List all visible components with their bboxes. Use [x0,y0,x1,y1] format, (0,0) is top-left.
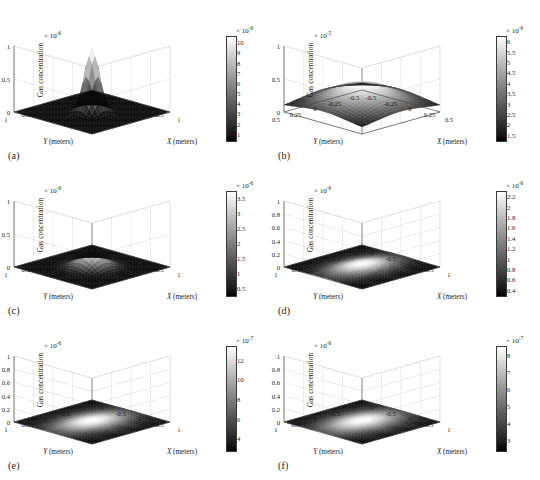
ytick-label: -0.5 [329,254,339,261]
colorbar-tick-label: 5 [237,90,240,97]
xtick-label: -0.5 [385,409,395,416]
colorbar-tick-label: 3 [237,110,240,117]
colorbar-exponent: × 10-7 [236,335,253,345]
xtick-label: -0.5 [115,409,125,416]
zaxis-exponent: × 10-6 [44,185,61,195]
zaxis-exponent: × 10-6 [44,340,61,350]
zaxis-title: Gas concentration [307,43,315,98]
ytick-label: 0 [313,105,316,112]
colorbar-tick-label: 4 [237,100,240,107]
panel-c: Gas concentration× 10-600.5110.50-0.5-1-… [0,163,270,318]
colorbar-tick-label: 5 [507,59,510,66]
colorbar-tick-label: 4 [507,79,510,86]
colorbar-tick-label: 2 [237,120,240,127]
colorbar-tick-label: 10 [237,39,244,46]
figure-multi-panel-surfaces: Gas concentration× 10-600.5110.50-0.5-1-… [0,0,540,480]
ytick-label: 0 [43,260,46,267]
zaxis-title: Gas concentration [307,198,315,253]
ytick-label: 0 [313,415,316,422]
zaxis-title: Gas concentration [37,198,45,253]
panel-d: Gas concentration× 10-600.20.40.60.8110.… [270,163,540,318]
colorbar-tick-label: 2.5 [237,225,245,232]
xtick-label: -1 [368,249,374,256]
ztick-label: 1 [0,198,10,205]
ytick-label: 0.5 [291,265,299,272]
ztick-label: 0.5 [0,231,10,238]
panel-label: (f) [278,460,289,471]
colorbar-tick-label: 2 [507,203,510,210]
yaxis-title: Y (meters) [43,448,73,456]
ztick-label: 1 [258,198,280,205]
colorbar-tick-label: 1 [237,269,240,276]
xtick-label: 1 [177,426,180,433]
ytick-label: 0 [313,260,316,267]
colorbar-tick-label: 0.5 [237,284,245,291]
ztick-label: 0 [0,109,10,116]
xaxis-title: X (meters) [437,293,467,301]
colorbar-tick-label: 5.5 [507,48,515,55]
xtick-label: -1 [98,249,104,256]
ytick-label: 1 [274,426,277,433]
colorbar-tick-label: 1.8 [507,214,515,221]
colorbar-tick-label: 1.2 [507,245,515,252]
ztick-label: 0.8 [258,366,280,373]
ytick-label: 0.5 [21,265,29,272]
xtick-label: 1 [447,271,450,278]
xtick-label: 0 [138,260,141,267]
ztick-label: 0.2 [258,250,280,257]
colorbar-tick-label: 3 [507,436,510,443]
colorbar-tick-label: 2.5 [507,111,515,118]
xtick-label: -0.5 [115,254,125,261]
colorbar-tick-label: 3 [237,210,240,217]
colorbar-tick-label: 9 [237,49,240,56]
colorbar-tick-label: 10 [237,376,244,383]
colorbar-tick-label: 4 [237,435,240,442]
colorbar-gradient [226,191,237,297]
panel-f: Gas concentration× 10-600.20.40.60.8110.… [270,318,540,473]
xaxis-title: X (meters) [167,138,197,146]
panel-label: (b) [278,150,290,161]
yaxis-title: Y (meters) [313,293,343,301]
colorbar-tick-label: 6 [507,385,510,392]
colorbar-gradient [496,191,507,297]
colorbar-exponent: × 10-6 [506,180,523,190]
xtick-label: 0 [408,415,411,422]
zaxis-exponent: × 10-6 [314,185,331,195]
xaxis-title: X (meters) [437,138,467,146]
xtick-label: 0 [408,105,411,112]
ytick-label: 0 [43,415,46,422]
yaxis-title: Y (meters) [43,138,73,146]
xtick-label: 0.5 [155,265,163,272]
ztick-label: 1 [0,43,10,50]
colorbar-gradient [496,36,507,142]
ztick-label: 0 [258,109,280,116]
ytick-label: 0.5 [21,420,29,427]
ztick-label: 0 [0,264,10,271]
panel-label: (e) [8,460,20,471]
yaxis-title: Y (meters) [313,138,343,146]
colorbar-tick-label: 0.6 [507,276,515,283]
xtick-label: -0.5 [115,99,125,106]
xtick-label: 0.5 [425,265,433,272]
colorbar-tick-label: 3.5 [507,90,515,97]
colorbar-tick-label: 3 [507,100,510,107]
colorbar-tick-label: 6 [237,415,240,422]
ytick-label: 1 [274,271,277,278]
colorbar-gradient [226,36,237,142]
panel-a: Gas concentration× 10-600.5110.50-0.5-1-… [0,8,270,163]
xtick-label: 0.5 [445,116,453,123]
colorbar-tick-label: 6 [507,38,510,45]
colorbar: × 10-612345678910 [226,36,235,140]
ztick-label: 0 [258,419,280,426]
colorbar: × 10-7345678 [496,346,505,450]
yaxis-title: Y (meters) [43,293,73,301]
colorbar: × 10-61.522.533.544.555.56 [496,36,505,140]
ytick-label: 0.25 [290,110,302,117]
colorbar-gradient [496,346,507,452]
colorbar-tick-label: 1.5 [237,254,245,261]
colorbar-tick-label: 1.4 [507,234,515,241]
ztick-label: 0.5 [0,76,10,83]
xtick-label: -1 [368,404,374,411]
ztick-label: 0 [0,419,10,426]
colorbar-exponent: × 10-7 [506,335,523,345]
